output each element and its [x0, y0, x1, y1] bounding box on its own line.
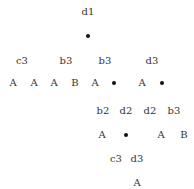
tree-node-label: b3: [168, 105, 181, 117]
tree-node-label: A: [138, 77, 145, 89]
tree-node-label: b3: [99, 55, 112, 67]
tree-node-label: d3: [131, 153, 144, 165]
tree-node-label: A: [157, 129, 164, 141]
tree-node-label: d2: [144, 105, 157, 117]
tree-node-label: d3: [146, 55, 159, 67]
tree-node-label: b2: [97, 105, 110, 117]
tree-node-label: d1: [82, 6, 95, 18]
tree-node-dot-icon: [160, 81, 164, 85]
tree-node-label: B: [180, 129, 187, 141]
tree-node-label: b3: [60, 55, 73, 67]
tree-node-label: A: [98, 129, 105, 141]
tree-node-label: A: [133, 177, 140, 189]
tree-node-dot-icon: [86, 34, 90, 38]
tree-node-label: c3: [16, 55, 28, 67]
tree-node-label: c3: [110, 153, 122, 165]
tree-node-label: B: [71, 77, 78, 89]
tree-node-label: A: [50, 77, 57, 89]
tree-node-label: d2: [120, 105, 133, 117]
tree-node-label: A: [30, 77, 37, 89]
tree-node-dot-icon: [124, 133, 128, 137]
tree-node-label: A: [9, 77, 16, 89]
tree-node-label: A: [91, 77, 98, 89]
tree-node-dot-icon: [112, 81, 116, 85]
